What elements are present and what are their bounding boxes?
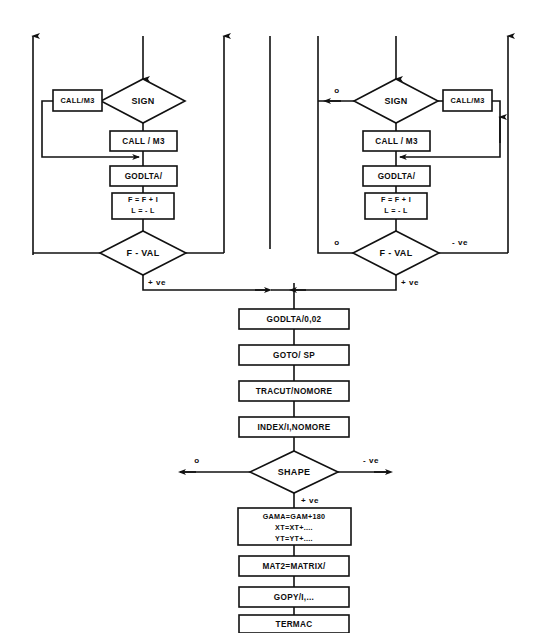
right-fval-down-exit [271,275,396,290]
left-assign-line2: L = - L [131,206,155,215]
left-call-label: CALL / M3 [122,137,165,146]
godlta-params-label: GODLTA/0,02 [267,315,322,324]
right-fval-o-label: o [334,238,340,247]
left-branch-group: SIGN CALL/M3 CALL / M3 GODLTA/ [33,79,269,290]
gama-line3: YT=YT+.... [275,534,313,543]
right-call-label: CALL / M3 [375,137,418,146]
mat2-matrix-label: MAT2=MATRIX/ [262,562,326,571]
shape-label: SHAPE [278,467,311,477]
gama-line1: GAMA=GAM+180 [263,512,326,521]
left-call-loop-label: CALL/M3 [60,96,94,105]
right-sign-label: SIGN [384,96,407,106]
shape-o-label: o [194,456,200,465]
right-fval-left-exit [318,249,353,253]
termac-label: TERMAC [276,620,313,629]
right-call-loop-label: CALL/M3 [450,96,484,105]
right-fval-label: F - VAL [380,248,413,258]
right-godlta-label: GODLTA/ [378,172,416,181]
left-fval-plusve-label: + ve [148,278,166,287]
shape-plusve-label: + ve [301,496,319,505]
right-fval-down-polyline [271,275,396,290]
left-godlta-label: GODLTA/ [125,172,163,181]
tracut-nomore-label: TRACUT/NOMORE [256,387,333,396]
shape-negve-label: - ve [363,456,379,465]
right-fval-left-polyline [318,249,353,253]
index-nomore-label: INDEX/I,NOMORE [258,423,331,432]
left-assign-line1: F = F + I [128,195,158,204]
gama-line2: XT=XT+.... [275,523,313,532]
right-fval-negve-label: - ve [452,238,468,247]
right-assign-line1: F = F + I [381,195,411,204]
right-sign-o-label: o [334,86,340,95]
right-assign-line2: L = - L [384,206,408,215]
flowchart-canvas: SIGN CALL/M3 CALL / M3 GODLTA/ [0,0,543,633]
right-fval-plusve-label: + ve [401,278,419,287]
flowchart-page: SIGN CALL/M3 CALL / M3 GODLTA/ [0,0,543,633]
left-fval-label: F - VAL [127,248,160,258]
goto-sp-label: GOTO/ SP [273,351,315,360]
right-branch-group: SIGN o CALL/M3 [271,79,508,290]
left-sign-label: SIGN [131,96,154,106]
center-merge-arrows [255,283,306,309]
top-rails [33,36,508,255]
main-sequence-group: GODLTA/0,02 GOTO/ SP TRACUT/NOMORE INDEX… [180,309,390,633]
gopy-label: GOPY/I,... [274,593,314,602]
